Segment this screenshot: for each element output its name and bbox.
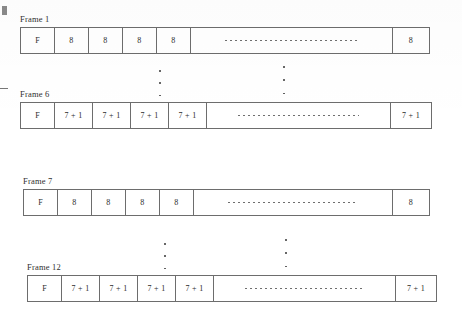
frame-unit-cell: 8 <box>160 190 194 215</box>
frame-tail-cell: 7 + 1 <box>396 276 436 301</box>
ellipsis-dot <box>164 255 166 257</box>
frame-unit-cell: 7 + 1 <box>176 276 214 301</box>
frame-bar: F 8 8 8 8 8 <box>23 189 430 216</box>
frame-label: Frame 12 <box>27 262 437 272</box>
frame-tail-cell: 8 <box>393 28 429 53</box>
page-margin-mark-top <box>2 6 7 15</box>
frame-unit-cell: 7 + 1 <box>169 103 207 128</box>
frame-continuation-cell <box>207 103 391 128</box>
frame-label: Frame 7 <box>23 176 430 186</box>
frame-unit-cell: 8 <box>55 28 89 53</box>
page-margin-mark-dash <box>0 88 8 89</box>
frame-start-cell: F <box>28 276 62 301</box>
frame-unit-cell: 7 + 1 <box>138 276 176 301</box>
frame-bar: F 7 + 1 7 + 1 7 + 1 7 + 1 7 + 1 <box>20 102 432 129</box>
frame-unit-cell: 8 <box>89 28 123 53</box>
frame-unit-cell: 8 <box>157 28 191 53</box>
frame-group-6: Frame 6 F 7 + 1 7 + 1 7 + 1 7 + 1 7 + 1 <box>20 89 432 129</box>
ellipsis-dot <box>164 243 166 245</box>
frame-unit-cell: 8 <box>92 190 126 215</box>
frame-tail-cell: 8 <box>393 190 429 215</box>
frame-unit-cell: 7 + 1 <box>55 103 93 128</box>
frame-continuation-cell <box>214 276 396 301</box>
ellipsis-dot <box>283 66 285 68</box>
frame-continuation-cell <box>191 28 393 53</box>
frame-unit-cell: 7 + 1 <box>93 103 131 128</box>
frame-group-1: Frame 1 F 8 8 8 8 8 <box>20 14 430 54</box>
horizontal-ellipsis-icon <box>228 202 359 203</box>
frame-unit-cell: 8 <box>123 28 157 53</box>
frame-bar: F 7 + 1 7 + 1 7 + 1 7 + 1 7 + 1 <box>27 275 437 302</box>
frame-start-cell: F <box>24 190 58 215</box>
frame-start-cell: F <box>21 103 55 128</box>
frame-group-7: Frame 7 F 8 8 8 8 8 <box>23 176 430 216</box>
ellipsis-dot <box>285 252 287 254</box>
frame-unit-cell: 7 + 1 <box>131 103 169 128</box>
horizontal-ellipsis-icon <box>245 288 364 289</box>
horizontal-ellipsis-icon <box>225 40 358 41</box>
frame-bar: F 8 8 8 8 8 <box>20 27 430 54</box>
frame-group-12: Frame 12 F 7 + 1 7 + 1 7 + 1 7 + 1 7 + 1 <box>27 262 437 302</box>
frame-unit-cell: 7 + 1 <box>100 276 138 301</box>
ellipsis-dot <box>285 239 287 241</box>
frame-unit-cell: 8 <box>126 190 160 215</box>
frame-unit-cell: 8 <box>58 190 92 215</box>
ellipsis-dot <box>283 79 285 81</box>
ellipsis-dot <box>159 70 161 72</box>
frame-start-cell: F <box>21 28 55 53</box>
frame-tail-cell: 7 + 1 <box>391 103 431 128</box>
frame-unit-cell: 7 + 1 <box>62 276 100 301</box>
horizontal-ellipsis-icon <box>238 115 359 116</box>
frame-label: Frame 6 <box>20 89 432 99</box>
frame-continuation-cell <box>194 190 393 215</box>
frame-label: Frame 1 <box>20 14 430 24</box>
ellipsis-dot <box>159 82 161 84</box>
